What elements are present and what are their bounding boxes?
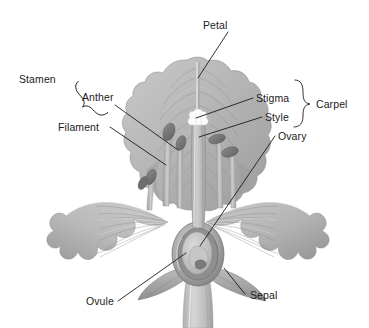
style xyxy=(191,122,205,228)
label-ovule: Ovule xyxy=(86,295,114,307)
flower-anatomy-diagram: Stamen Anther Filament Petal Stigma Styl… xyxy=(0,0,369,328)
flower-illustration: Stamen Anther Filament Petal Stigma Styl… xyxy=(0,0,369,328)
label-filament: Filament xyxy=(58,121,99,133)
petal-lower-right xyxy=(206,203,329,260)
label-style: Style xyxy=(265,111,289,123)
ovary xyxy=(172,222,224,286)
label-carpel: Carpel xyxy=(316,98,348,110)
stem xyxy=(183,282,213,328)
label-sepal: Sepal xyxy=(250,289,277,301)
carpel-brace xyxy=(294,80,310,127)
petal-lower-left xyxy=(47,203,168,260)
label-petal: Petal xyxy=(203,19,227,31)
label-ovary: Ovary xyxy=(278,130,307,142)
label-stigma: Stigma xyxy=(256,92,289,104)
label-stamen: Stamen xyxy=(19,73,56,85)
label-anther: Anther xyxy=(82,91,114,103)
